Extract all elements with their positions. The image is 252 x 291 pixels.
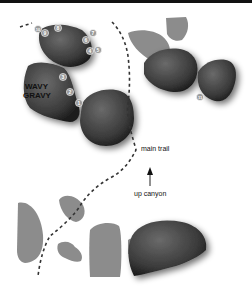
area-name-line2: GRAVY [23,91,52,100]
svg-text:4: 4 [89,48,92,54]
area-name-line1: WAVY [25,82,49,91]
svg-text:10: 10 [36,27,41,32]
problem-marker-4[interactable]: 4 [86,47,93,54]
problem-marker-1[interactable]: 1 [75,99,82,106]
svg-text:9: 9 [44,30,47,36]
svg-text:5: 5 [97,47,100,53]
boulder-bean [57,242,82,262]
svg-text:2: 2 [69,89,72,95]
problem-marker-5[interactable]: 5 [94,46,101,53]
svg-text:7: 7 [92,30,95,36]
problem-marker-9[interactable]: 9 [41,29,48,36]
problem-marker-10[interactable]: 10 [34,25,41,32]
boulder-lower-right [128,221,206,276]
boulder-upper-right-small [166,17,188,41]
svg-text:8: 8 [57,25,60,31]
problem-marker-7[interactable]: 7 [89,29,96,36]
problem-marker-2[interactable]: 2 [66,88,73,95]
boulder-map: WAVY GRAVY main trail up canyon 10987645… [0,0,252,291]
trail-label: main trail [141,145,170,152]
boulder-lower-center [89,223,121,277]
boulder-right-large [144,49,198,92]
svg-text:3: 3 [62,74,65,80]
boulder-mid-left [59,196,85,222]
major-boulders [24,25,236,276]
problem-marker-3[interactable]: 3 [59,73,66,80]
direction-label: up canyon [134,190,166,198]
approach-trail-segment [20,23,32,27]
problem-marker-8[interactable]: 8 [54,24,61,31]
problem-marker-6[interactable]: 6 [82,36,89,43]
boulder-right-small [198,60,236,102]
boulder-lower-left [17,203,43,263]
boulder-center [80,90,134,146]
svg-text:6: 6 [85,37,88,43]
problem-marker-11[interactable]: 11 [196,93,203,100]
up-canyon-arrow [147,167,153,186]
svg-text:1: 1 [78,100,81,106]
